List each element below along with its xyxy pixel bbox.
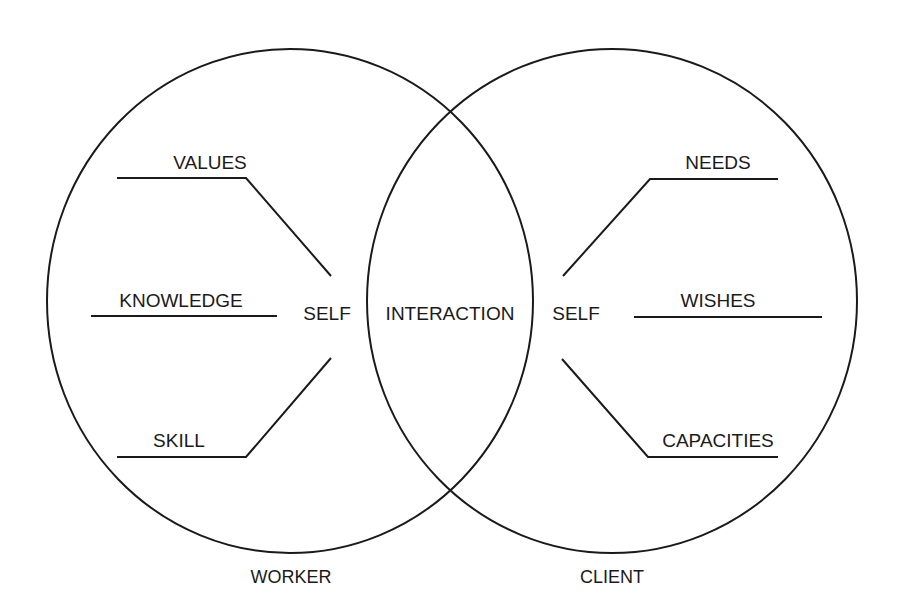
venn-diagram: VALUES KNOWLEDGE SKILL SELF INTERACTION … <box>0 0 900 611</box>
worker-caption: WORKER <box>251 568 332 586</box>
values-label: VALUES <box>173 153 247 172</box>
wishes-label: WISHES <box>681 291 756 310</box>
worker-self-label: SELF <box>303 304 351 323</box>
interaction-label: INTERACTION <box>386 304 515 323</box>
client-self-label: SELF <box>552 304 600 323</box>
knowledge-label: KNOWLEDGE <box>119 291 243 310</box>
client-circle <box>367 49 857 553</box>
needs-label: NEEDS <box>685 153 750 172</box>
values-connector <box>117 178 331 276</box>
client-caption: CLIENT <box>580 568 644 586</box>
capacities-label: CAPACITIES <box>662 431 774 450</box>
skill-label: SKILL <box>153 431 205 450</box>
skill-connector <box>117 358 331 457</box>
needs-connector <box>563 179 778 276</box>
